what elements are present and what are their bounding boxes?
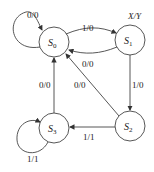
edge-label-s2-s3: 1/1 <box>83 132 95 142</box>
state-s2-label: S2 <box>124 121 133 134</box>
edge-label-s3-s3: 1/1 <box>27 154 39 164</box>
edge-label-s1-s2: 1/0 <box>132 80 144 90</box>
state-diagram: S0 S1 S2 S3 0/0 1/0 0/0 1/0 0/0 1/1 0/0 … <box>0 0 154 172</box>
state-s3-label: S3 <box>48 123 57 136</box>
edge-label-s1-s0: 0/0 <box>82 59 94 69</box>
edge-label-s2-s0: 0/0 <box>74 80 86 90</box>
state-s0-label: S0 <box>48 37 57 50</box>
edge-label-s0-s0: 0/0 <box>27 10 39 20</box>
state-s1-label: S1 <box>124 35 133 48</box>
edge-label-s0-s1: 1/0 <box>82 23 94 33</box>
edge-label-s3-s0: 0/0 <box>39 80 51 90</box>
legend-xy: X/Y <box>127 11 142 21</box>
edge-s3-s3 <box>17 120 48 152</box>
edge-s1-s0 <box>69 47 117 53</box>
